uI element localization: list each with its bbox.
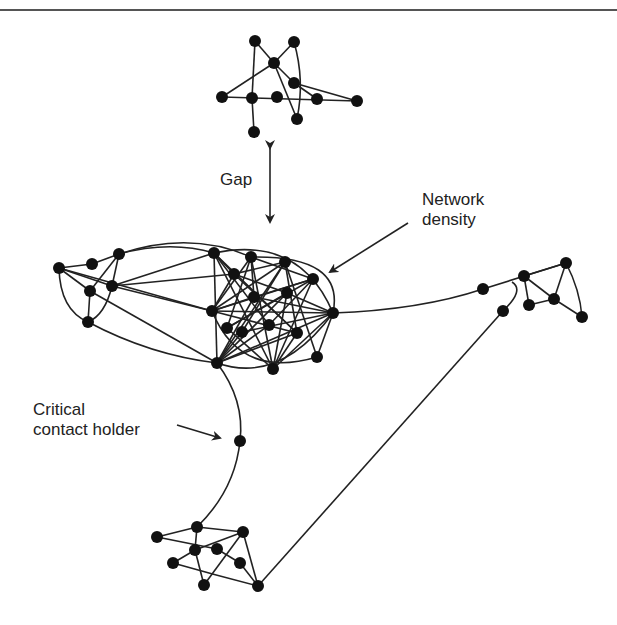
main-cluster-node <box>106 280 118 292</box>
network-density-label-1: Network <box>422 190 484 210</box>
main-cluster-node <box>248 291 260 303</box>
top-cluster-node <box>291 113 303 125</box>
main-cluster-node <box>113 248 125 260</box>
main-cluster-node <box>86 258 98 270</box>
top-cluster-node <box>268 57 280 69</box>
main-cluster-node <box>267 363 279 375</box>
right-cluster-node <box>548 293 560 305</box>
critical-label-1: Critical <box>33 400 85 420</box>
main-cluster-node <box>206 305 218 317</box>
bottom-cluster-node <box>234 557 246 569</box>
main-cluster-node <box>228 268 240 280</box>
main-cluster-node <box>82 316 94 328</box>
main-cluster-node <box>263 319 275 331</box>
network-density-label-2: density <box>422 210 476 230</box>
main-cluster-node <box>279 256 291 268</box>
right-cluster-node <box>523 299 535 311</box>
main-cluster-node <box>211 357 223 369</box>
top-cluster-node <box>246 92 258 104</box>
bottom-cluster-node <box>191 521 203 533</box>
main-cluster-node <box>327 307 339 319</box>
main-cluster-node <box>307 273 319 285</box>
bottom-cluster-node <box>211 543 223 555</box>
right-cluster-node <box>560 257 572 269</box>
main-cluster-node <box>53 262 65 274</box>
main-cluster-node <box>291 327 303 339</box>
main-cluster-node <box>236 326 248 338</box>
main-cluster-node <box>208 247 220 259</box>
top-cluster-node <box>351 95 363 107</box>
bottom-cluster-node <box>198 579 210 591</box>
top-cluster-node <box>216 91 228 103</box>
right-cluster-node <box>477 283 489 295</box>
top-cluster-node <box>249 35 261 47</box>
top-cluster-node <box>271 91 283 103</box>
bottom-cluster-node <box>252 580 264 592</box>
bottom-cluster-node <box>151 531 163 543</box>
top-cluster-node <box>311 93 323 105</box>
critical-label-2: contact holder <box>33 420 140 440</box>
bottom-cluster-node <box>189 544 201 556</box>
main-cluster-node <box>221 322 233 334</box>
network-diagram <box>0 0 617 625</box>
top-cluster-node <box>288 36 300 48</box>
right-cluster-node <box>518 270 530 282</box>
critical-contact-node <box>234 435 246 447</box>
bottom-cluster-node <box>237 526 249 538</box>
main-cluster-node <box>281 287 293 299</box>
main-cluster-node <box>245 251 257 263</box>
bottom-cluster-node <box>167 557 179 569</box>
main-cluster-node <box>84 285 96 297</box>
top-cluster-node <box>288 77 300 89</box>
gap-label: Gap <box>220 170 252 190</box>
right-cluster-node <box>576 311 588 323</box>
right-cluster-node <box>497 305 509 317</box>
top-cluster-node <box>248 126 260 138</box>
main-cluster-node <box>311 351 323 363</box>
